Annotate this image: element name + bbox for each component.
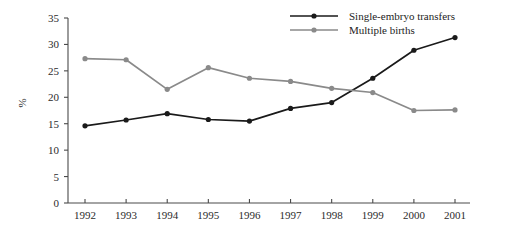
data-series <box>82 35 457 128</box>
y-tick-label: 0 <box>54 197 60 209</box>
data-point <box>124 117 129 122</box>
legend-marker <box>311 13 316 18</box>
x-tick-label: 1996 <box>238 209 261 221</box>
data-point <box>288 79 293 84</box>
y-tick-label: 5 <box>54 171 60 183</box>
series-line <box>85 59 455 111</box>
x-tick-label: 1994 <box>156 209 179 221</box>
series-line <box>85 38 455 126</box>
data-point <box>82 56 87 61</box>
data-series <box>82 56 457 113</box>
x-tick-label: 2000 <box>403 209 426 221</box>
data-point <box>206 117 211 122</box>
data-point <box>165 111 170 116</box>
data-point <box>411 108 416 113</box>
legend-label: Single-embryo transfers <box>349 10 455 22</box>
data-point <box>411 48 416 53</box>
data-point <box>124 57 129 62</box>
y-tick-label: 25 <box>48 65 60 77</box>
y-tick-label: 20 <box>48 91 60 103</box>
data-point <box>165 87 170 92</box>
x-tick-label: 1999 <box>362 209 385 221</box>
x-tick-label: 1997 <box>280 209 303 221</box>
data-point <box>247 76 252 81</box>
x-tick-label: 2001 <box>444 209 466 221</box>
x-tick-label: 1993 <box>115 209 138 221</box>
data-point <box>452 107 457 112</box>
chart-legend: Single-embryo transfersMultiple births <box>290 10 455 36</box>
data-point <box>329 100 334 105</box>
y-tick-label: 30 <box>48 38 60 50</box>
legend-label: Multiple births <box>349 24 415 36</box>
x-tick-label: 1998 <box>321 209 344 221</box>
y-tick-label: 15 <box>48 118 60 130</box>
data-point <box>370 90 375 95</box>
data-point <box>247 118 252 123</box>
chart-container: 05101520253035 1992199319941995199619971… <box>0 0 508 242</box>
data-point <box>452 35 457 40</box>
y-axis-title: % <box>16 98 28 107</box>
data-point <box>329 86 334 91</box>
y-tick-label: 10 <box>48 144 60 156</box>
x-tick-label: 1995 <box>197 209 220 221</box>
x-tick-label: 1992 <box>74 209 96 221</box>
line-chart: 05101520253035 1992199319941995199619971… <box>0 0 508 242</box>
data-point <box>206 65 211 70</box>
y-tick-label: 35 <box>48 12 60 24</box>
data-point <box>370 76 375 81</box>
legend-marker <box>311 27 316 32</box>
data-point <box>82 123 87 128</box>
x-axis: 1992199319941995199619971998199920002001 <box>68 199 470 221</box>
data-series-group <box>82 35 457 128</box>
y-axis: 05101520253035 <box>48 12 68 209</box>
data-point <box>288 106 293 111</box>
